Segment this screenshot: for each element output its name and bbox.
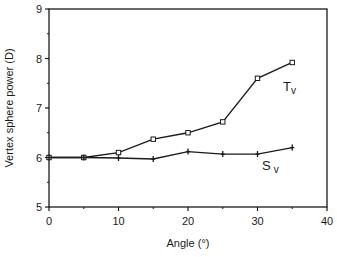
y-tick-label: 5 <box>36 201 42 213</box>
marker-square <box>255 76 259 80</box>
series-label-sv: Sv <box>262 158 279 175</box>
y-tick-label: 8 <box>36 53 42 65</box>
x-tick-label: 10 <box>112 215 124 227</box>
x-axis-label: Angle (°) <box>167 237 210 249</box>
x-axis-ticks: 010203040 <box>46 207 333 227</box>
plot-frame <box>49 9 327 207</box>
marker-square <box>221 120 225 124</box>
marker-square <box>151 137 155 141</box>
marker-square <box>186 131 190 135</box>
marker-square <box>116 150 120 154</box>
chart: 56789 010203040 Angle (°) Vertex sphere … <box>0 0 337 257</box>
y-tick-label: 7 <box>36 102 42 114</box>
series-label-tv: Tv <box>283 79 296 96</box>
y-axis-ticks: 56789 <box>36 3 49 213</box>
data-series <box>47 60 295 162</box>
x-tick-label: 30 <box>251 215 263 227</box>
x-tick-label: 0 <box>46 215 52 227</box>
x-tick-label: 20 <box>182 215 194 227</box>
x-tick-label: 40 <box>321 215 333 227</box>
y-axis-label: Vertex sphere power (D) <box>3 48 15 167</box>
y-tick-label: 9 <box>36 3 42 15</box>
y-tick-label: 6 <box>36 152 42 164</box>
marker-square <box>290 60 294 64</box>
